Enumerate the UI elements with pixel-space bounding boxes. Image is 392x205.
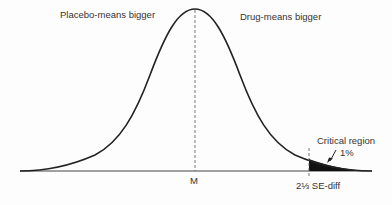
- left-region-label: Placebo-means bigger: [60, 9, 155, 20]
- right-region-label: Drug-means bigger: [240, 11, 321, 22]
- critical-percent-label: 1%: [340, 147, 354, 158]
- bell-curve: [20, 9, 372, 171]
- mean-label: M: [190, 175, 198, 186]
- arrowhead-icon: [327, 158, 333, 164]
- critical-region-label: Critical region: [317, 135, 375, 146]
- critical-x-label: 2⅓ SE-diff: [296, 180, 340, 191]
